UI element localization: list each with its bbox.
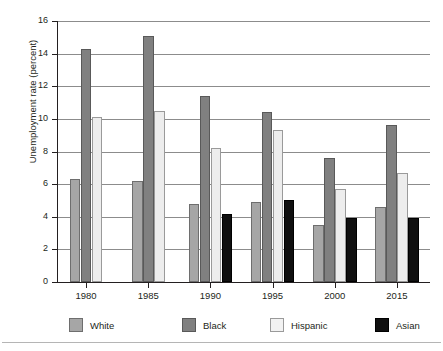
- bar-white-1980: [70, 179, 81, 282]
- gridline: [57, 184, 430, 185]
- bar-white-1995: [251, 202, 262, 282]
- legend-item-hispanic: Hispanic: [270, 315, 327, 335]
- unemployment-rate-bar-chart: 0246810121416 198019851990199520002015 U…: [0, 0, 443, 351]
- x-tick-label-1980: 1980: [56, 290, 116, 301]
- y-tick-mark: [52, 282, 57, 283]
- legend-item-asian: Asian: [375, 315, 420, 335]
- bar-black-1995: [262, 112, 273, 282]
- legend-label-white: White: [90, 320, 114, 331]
- chart-legend: WhiteBlackHispanicAsian: [57, 315, 430, 337]
- bar-black-2000: [324, 158, 335, 282]
- x-tick-mark: [210, 283, 211, 288]
- y-tick-mark: [52, 184, 57, 185]
- legend-label-asian: Asian: [396, 320, 420, 331]
- bar-hispanic-2000: [335, 189, 346, 282]
- y-tick-mark: [52, 249, 57, 250]
- bar-black-2015: [386, 125, 397, 282]
- x-tick-mark: [335, 283, 336, 288]
- x-tick-mark: [148, 283, 149, 288]
- plot-area: [57, 21, 430, 282]
- bar-white-1985: [132, 181, 143, 282]
- bar-white-2000: [313, 225, 324, 282]
- legend-swatch-white: [69, 318, 83, 332]
- bar-hispanic-2015: [397, 173, 408, 282]
- y-tick-mark: [52, 217, 57, 218]
- y-tick-label: 4: [8, 212, 48, 221]
- legend-label-black: Black: [203, 320, 226, 331]
- gridline: [57, 21, 430, 22]
- bar-black-1990: [200, 96, 211, 282]
- bar-asian-2015: [408, 218, 419, 282]
- x-tick-mark: [397, 283, 398, 288]
- y-tick-label: 2: [8, 244, 48, 253]
- gridline: [57, 217, 430, 218]
- legend-swatch-black: [182, 318, 196, 332]
- legend-swatch-hispanic: [270, 318, 284, 332]
- y-tick-mark: [52, 119, 57, 120]
- y-axis-title: Unemployment rate (percent): [27, 12, 38, 192]
- y-tick-mark: [52, 152, 57, 153]
- x-tick-label-2015: 2015: [367, 290, 427, 301]
- bar-hispanic-1990: [211, 148, 222, 282]
- gridline: [57, 86, 430, 87]
- gridline: [57, 54, 430, 55]
- bar-black-1980: [81, 49, 92, 282]
- legend-swatch-asian: [375, 318, 389, 332]
- y-tick-mark: [52, 21, 57, 22]
- gridline: [57, 152, 430, 153]
- axis-baseline: [57, 282, 430, 283]
- y-tick-label: 0: [8, 277, 48, 286]
- x-tick-label-1990: 1990: [180, 290, 240, 301]
- gridline: [57, 119, 430, 120]
- bar-white-1990: [189, 204, 200, 282]
- x-tick-mark: [273, 283, 274, 288]
- x-tick-label-2000: 2000: [305, 290, 365, 301]
- y-tick-mark: [52, 86, 57, 87]
- x-tick-label-1995: 1995: [243, 290, 303, 301]
- legend-item-black: Black: [182, 315, 226, 335]
- bottom-divider: [2, 342, 441, 343]
- bar-black-1985: [143, 36, 154, 282]
- x-tick-label-1985: 1985: [118, 290, 178, 301]
- bar-hispanic-1985: [154, 111, 165, 282]
- bar-asian-2000: [346, 218, 357, 282]
- legend-item-white: White: [69, 315, 114, 335]
- bar-asian-1995: [284, 200, 295, 282]
- x-tick-mark: [86, 283, 87, 288]
- bar-white-2015: [375, 207, 386, 282]
- y-tick-mark: [52, 54, 57, 55]
- legend-label-hispanic: Hispanic: [291, 320, 327, 331]
- bar-hispanic-1995: [273, 130, 284, 282]
- bar-asian-1990: [222, 214, 233, 283]
- bar-hispanic-1980: [92, 117, 103, 282]
- y-axis-line: [57, 21, 58, 283]
- gridline: [57, 249, 430, 250]
